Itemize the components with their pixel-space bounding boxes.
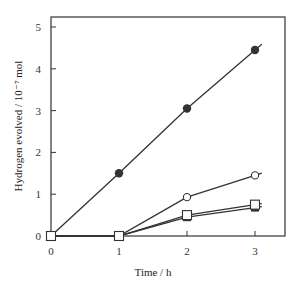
x-tick-label: 3	[252, 245, 258, 257]
series-line-filled-circle	[51, 44, 262, 236]
y-tick-label: 4	[36, 63, 42, 75]
marker-open-square	[183, 211, 192, 220]
marker-open-circle	[183, 194, 190, 201]
y-tick-label: 3	[36, 105, 42, 117]
y-tick-label: 2	[36, 146, 42, 158]
series-lines	[51, 44, 262, 236]
hydrogen-evolution-chart: 0123012345 Time / h Hydrogen evolved / 1…	[0, 0, 298, 287]
tick-labels: 0123012345	[36, 21, 259, 257]
x-tick-label: 2	[184, 245, 190, 257]
axis-ticks	[51, 27, 255, 236]
marker-filled-circle	[183, 104, 191, 112]
marker-open-square	[115, 232, 124, 241]
marker-filled-circle	[115, 169, 123, 177]
y-tick-label: 1	[36, 188, 42, 200]
x-tick-label: 0	[48, 245, 54, 257]
x-tick-label: 1	[116, 245, 122, 257]
series-line-filled-square	[51, 207, 262, 236]
marker-open-square	[47, 232, 56, 241]
series-line-open-square	[51, 204, 262, 236]
y-tick-label: 0	[36, 230, 42, 242]
series-line-open-circle	[51, 173, 262, 236]
y-tick-label: 5	[36, 21, 42, 33]
marker-open-circle	[251, 172, 258, 179]
marker-filled-circle	[251, 46, 259, 54]
y-axis-title: Hydrogen evolved / 10⁻⁷ mol	[12, 61, 24, 192]
x-axis-title: Time / h	[135, 266, 172, 278]
marker-open-square	[251, 200, 260, 209]
